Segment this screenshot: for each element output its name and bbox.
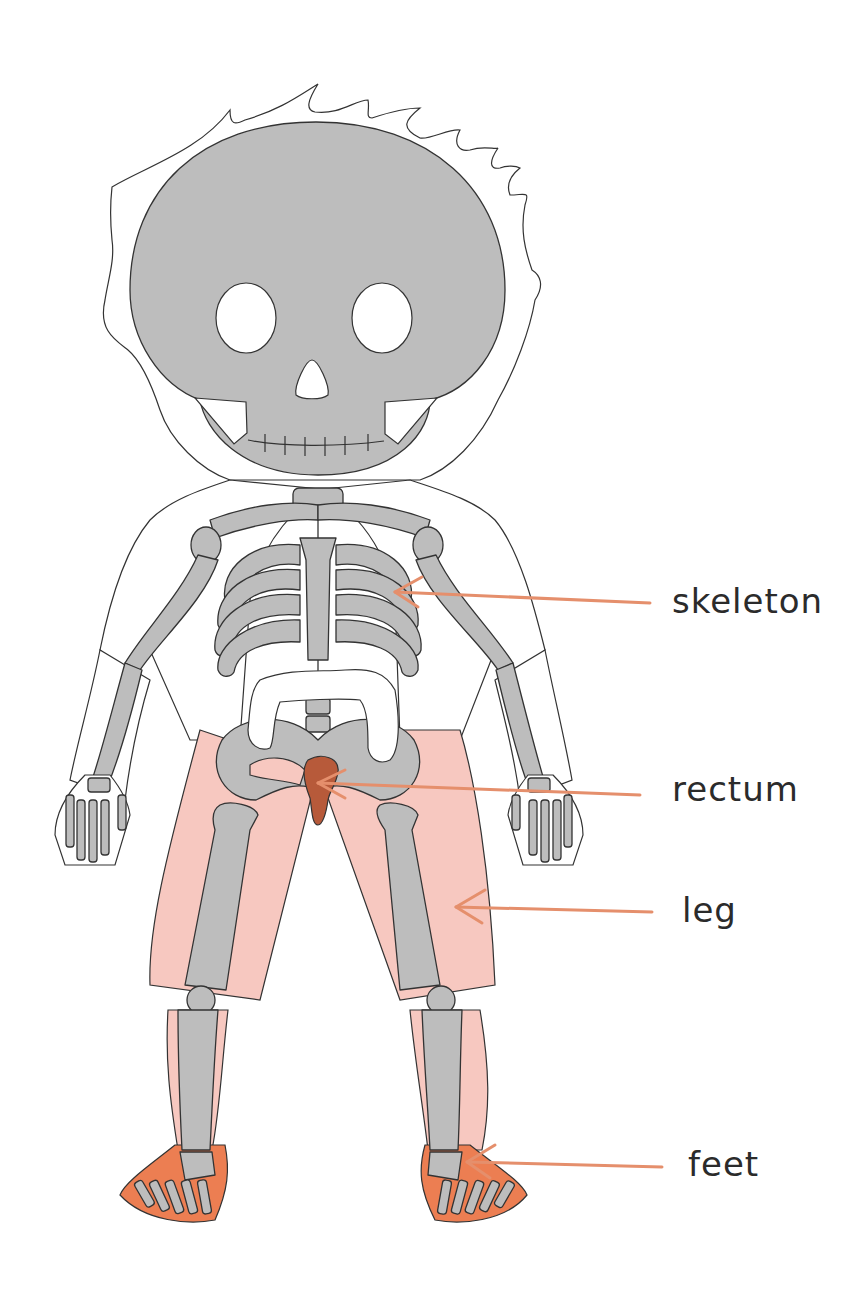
label-feet: feet: [688, 1147, 759, 1181]
label-rectum: rectum: [672, 772, 799, 806]
skeleton-diagram: [0, 0, 868, 1296]
label-skeleton: skeleton: [672, 584, 823, 618]
label-leg: leg: [682, 893, 737, 927]
foot-bones: [134, 1152, 516, 1215]
